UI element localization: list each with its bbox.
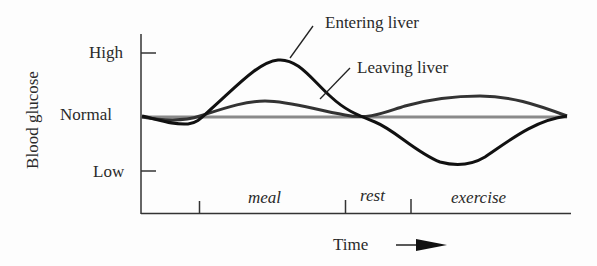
entering-liver-leader <box>290 26 313 58</box>
chart-canvas <box>0 0 597 266</box>
phase-label-rest: rest <box>360 187 385 204</box>
phase-label-meal: meal <box>248 189 281 206</box>
phase-label-exercise: exercise <box>451 189 506 206</box>
y-tick-label-low: Low <box>93 163 124 180</box>
entering-liver-curve <box>142 60 567 165</box>
leaving-liver-leader <box>320 68 350 99</box>
annotation-leaving-liver: Leaving liver <box>357 59 448 76</box>
y-tick-label-normal: Normal <box>60 106 112 123</box>
annotation-entering-liver: Entering liver <box>325 14 419 31</box>
y-tick-label-high: High <box>89 44 123 61</box>
x-axis-label: Time <box>333 236 368 253</box>
y-axis-label: Blood glucose <box>23 71 43 169</box>
time-arrow-icon <box>416 239 447 251</box>
